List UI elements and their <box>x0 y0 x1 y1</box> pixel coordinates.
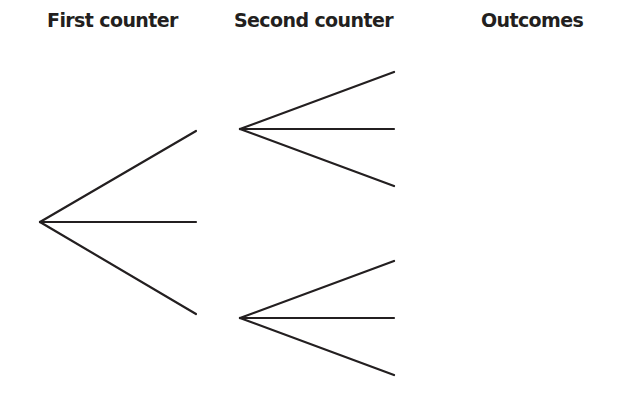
first-counter-branches <box>40 131 196 314</box>
second-counter-1-branch-1 <box>240 72 394 129</box>
first-counter-branch-3 <box>40 222 196 314</box>
second-counter-2-branch-3 <box>240 318 394 375</box>
second-counter-branches <box>240 72 394 375</box>
first-counter-branch-1 <box>40 131 196 222</box>
second-counter-1-branch-3 <box>240 129 394 186</box>
tree-diagram <box>0 0 625 401</box>
second-counter-2-branch-1 <box>240 261 394 318</box>
